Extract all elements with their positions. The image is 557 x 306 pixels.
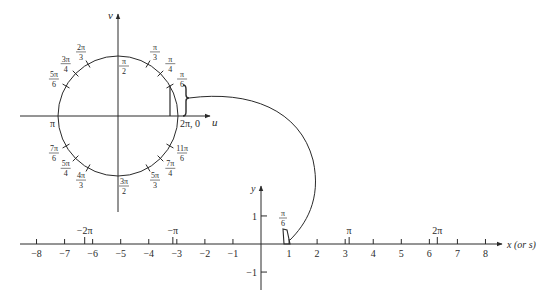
angle-label-4pi3: 4π3 [76, 171, 86, 190]
svg-text:4π: 4π [77, 171, 85, 180]
angle-tick-pi3 [146, 61, 150, 68]
x-tick-label: −6 [87, 248, 98, 259]
svg-text:4: 4 [168, 65, 172, 74]
x-tick-label: −5 [115, 248, 126, 259]
angle-label-5pi6: 5π6 [49, 70, 59, 89]
svg-text:5π: 5π [62, 159, 70, 168]
svg-text:2π: 2π [77, 43, 85, 52]
svg-text:3π: 3π [62, 55, 70, 64]
svg-text:π: π [153, 43, 157, 52]
x-axis-label: x (or s) [506, 239, 537, 251]
angle-label-5pi4: 5π4 [61, 159, 71, 178]
arc-label-den: 6 [281, 219, 285, 228]
pi-mark-label: π [347, 225, 352, 236]
x-tick-label: −7 [59, 248, 70, 259]
x-tick-label: 5 [399, 248, 404, 259]
svg-text:3: 3 [153, 53, 157, 62]
x-tick-label: −4 [143, 248, 154, 259]
svg-text:4: 4 [64, 169, 68, 178]
v-axis-label: v [108, 9, 113, 21]
y-tick-label: 1 [252, 211, 257, 222]
angle-label-2pi3: 2π3 [76, 43, 86, 62]
zero-2pi-label: 2π, 0 [180, 118, 200, 129]
angle-label-pi4: π4 [165, 55, 175, 74]
angle-label-pi3: π3 [150, 43, 160, 62]
svg-text:π: π [122, 57, 126, 66]
diagram-canvas: v u π 2π, 0 π6π4π3π22π33π45π67π65π44π33π… [0, 0, 557, 306]
arc-length-label: π 6 [279, 209, 287, 228]
number-line-plot [20, 186, 502, 290]
svg-text:7π: 7π [166, 159, 174, 168]
svg-text:3: 3 [79, 181, 83, 190]
pi-mark-label: 2π [432, 225, 442, 236]
svg-text:3: 3 [79, 53, 83, 62]
svg-text:11π: 11π [176, 144, 188, 153]
u-axis-label: u [212, 116, 218, 128]
pi-mark-label: −2π [77, 225, 93, 236]
svg-text:3: 3 [153, 181, 157, 190]
angle-label-pi2: π2 [119, 57, 129, 76]
svg-text:3π: 3π [120, 177, 128, 186]
svg-text:6: 6 [180, 80, 184, 89]
angle-tick-11pi6 [166, 144, 173, 148]
svg-text:4: 4 [64, 65, 68, 74]
x-tick-label: −1 [228, 248, 239, 259]
svg-text:5π: 5π [151, 171, 159, 180]
y-tick-label: −1 [246, 267, 257, 278]
svg-text:5π: 5π [50, 70, 58, 79]
x-tick-label: 1 [287, 248, 292, 259]
svg-text:2: 2 [122, 67, 126, 76]
svg-text:π: π [180, 70, 184, 79]
angle-tick-2pi3 [86, 61, 90, 68]
arc-label-num: π [281, 209, 285, 218]
angle-tick-7pi6 [63, 144, 70, 148]
angle-tick-5pi6 [63, 84, 70, 88]
unit-circle-wrapping-diagram: v u π 2π, 0 π6π4π3π22π33π45π67π65π44π33π… [0, 0, 557, 306]
x-tick-label: 3 [343, 248, 348, 259]
x-tick-label: −2 [200, 248, 211, 259]
x-tick-label: −8 [31, 248, 42, 259]
x-tick-label: −3 [171, 248, 182, 259]
angle-label-5pi3: 5π3 [150, 171, 160, 190]
svg-text:4: 4 [168, 169, 172, 178]
angle-label-3pi2: 3π2 [119, 177, 129, 196]
svg-text:6: 6 [52, 80, 56, 89]
svg-text:7π: 7π [50, 144, 58, 153]
unit-circle-plot [20, 14, 316, 240]
angle-label-7pi6: 7π6 [49, 144, 59, 163]
x-tick-label: 6 [427, 248, 432, 259]
brace-icon [183, 85, 189, 116]
angle-tick-5pi3 [146, 164, 150, 171]
svg-text:6: 6 [180, 154, 184, 163]
pi-mark-label: −π [167, 225, 178, 236]
y-axis-label: y [250, 183, 256, 194]
x-tick-label: 2 [315, 248, 320, 259]
x-tick-label: 8 [483, 248, 488, 259]
svg-text:6: 6 [52, 154, 56, 163]
angle-label-3pi4: 3π4 [61, 55, 71, 74]
svg-text:π: π [168, 55, 172, 64]
pi-label: π [50, 118, 55, 129]
angle-label-11pi6: 11π6 [176, 144, 188, 163]
x-tick-label: 7 [455, 248, 460, 259]
x-tick-label: 4 [371, 248, 376, 259]
svg-text:2: 2 [122, 187, 126, 196]
angle-label-7pi4: 7π4 [165, 159, 175, 178]
angle-tick-4pi3 [86, 164, 90, 171]
